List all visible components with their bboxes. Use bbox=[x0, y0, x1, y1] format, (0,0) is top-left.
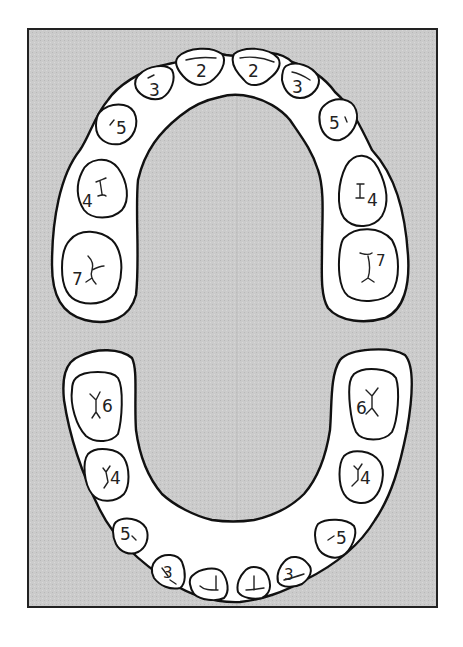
tooth-label: 3 bbox=[284, 566, 294, 584]
tooth-lower-right-premolar[interactable]: 4 bbox=[340, 451, 383, 503]
tooth-lower-left-central-incisor[interactable]: 1 bbox=[190, 569, 228, 601]
tooth-label: 2 bbox=[248, 61, 259, 81]
tooth-label: 2 bbox=[196, 61, 207, 81]
tooth-label: 5 bbox=[336, 528, 347, 548]
tooth-label: 3 bbox=[149, 80, 160, 100]
tooth-label: 4 bbox=[360, 468, 371, 488]
tooth-label: 4 bbox=[82, 191, 93, 211]
tooth-label: 6 bbox=[102, 396, 113, 416]
dental-arch-diagram: 2 2 3 3 5 5 bbox=[0, 0, 463, 647]
tooth-lower-right-molar[interactable]: 6 bbox=[349, 369, 398, 439]
tooth-label: 5 bbox=[329, 113, 340, 133]
tooth-upper-left-canine[interactable]: 5 bbox=[96, 105, 136, 145]
tooth-upper-right-molar[interactable]: 7 bbox=[339, 229, 398, 301]
tooth-label: 5 bbox=[120, 524, 131, 544]
tooth-lower-left-premolar[interactable]: 4 bbox=[85, 449, 129, 501]
tooth-upper-left-molar[interactable]: 7 bbox=[62, 232, 121, 304]
tooth-label: 4 bbox=[110, 468, 121, 488]
tooth-label: 7 bbox=[72, 269, 83, 289]
tooth-label: 4 bbox=[367, 190, 378, 210]
tooth-label: 5 bbox=[116, 118, 127, 138]
tooth-label: 6 bbox=[356, 398, 367, 418]
tooth-lower-left-canine[interactable]: 5 bbox=[113, 519, 148, 554]
tooth-label: 3 bbox=[163, 564, 173, 582]
tooth-label: 7 bbox=[376, 252, 386, 270]
tooth-label: 3 bbox=[292, 77, 303, 97]
